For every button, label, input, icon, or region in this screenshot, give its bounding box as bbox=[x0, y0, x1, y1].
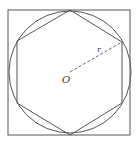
hexagon-circle-square-diagram: O r bbox=[0, 0, 139, 144]
radius-line bbox=[70, 42, 122, 72]
center-label: O bbox=[62, 74, 70, 85]
inscribed-hexagon bbox=[17, 10, 122, 135]
radius-label: r bbox=[97, 45, 102, 54]
